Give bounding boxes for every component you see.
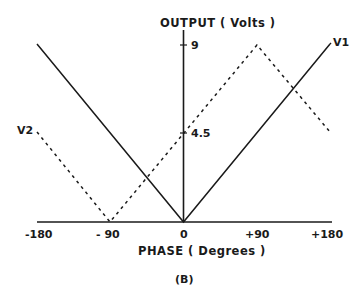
y-tick-label-9: 9 [191, 39, 199, 52]
y-tick-label-4-5: 4.5 [191, 127, 211, 140]
x-tick-label-neg180: -180 [25, 228, 53, 241]
series-v1-extension [330, 43, 331, 44]
x-tick-label-pos90: +90 [245, 228, 270, 241]
x-tick-label-neg90: - 90 [96, 228, 120, 241]
chart-canvas: OUTPUT ( Volts ) 9 4.5 V1 V2 -180 - 90 0… [0, 0, 357, 290]
series-label-v1: V1 [333, 36, 349, 49]
x-tick-label-0: 0 [180, 228, 188, 241]
series-label-v2: V2 [17, 124, 33, 137]
x-axis-title: PHASE ( Degrees ) [138, 244, 266, 258]
figure-caption: (B) [175, 273, 193, 286]
x-tick-label-pos180: +180 [311, 228, 344, 241]
y-axis-title: OUTPUT ( Volts ) [160, 16, 276, 30]
